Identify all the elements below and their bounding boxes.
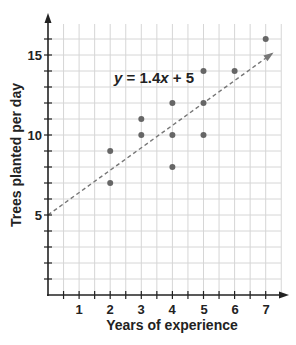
- trend-arrow-icon: [263, 53, 273, 62]
- scatter-chart: 1 2 3 4 5 6 7 5 10 15 Years of experienc…: [0, 0, 296, 345]
- data-point: [201, 100, 207, 106]
- trend-equation: y = 1.4x + 5: [113, 69, 194, 86]
- data-point: [138, 116, 144, 122]
- data-point: [169, 164, 175, 170]
- eq-end: + 5: [169, 69, 194, 86]
- y-axis-arrow-icon: [45, 13, 52, 23]
- y-tick-label: 5: [35, 208, 42, 223]
- data-point: [201, 68, 207, 74]
- eq-mid: = 1.4: [122, 69, 161, 86]
- y-axis-title: Trees planted per day: [8, 83, 24, 227]
- axes: [45, 13, 290, 299]
- x-tick-label: 5: [200, 302, 207, 317]
- data-point: [107, 148, 113, 154]
- x-tick-label: 4: [168, 302, 176, 317]
- x-tick-label: 2: [106, 302, 113, 317]
- y-tick-label: 10: [28, 128, 42, 143]
- data-point: [138, 132, 144, 138]
- x-axis-arrow-icon: [279, 292, 289, 299]
- x-tick-label: 6: [231, 302, 238, 317]
- x-tick-label: 1: [75, 302, 82, 317]
- grid: [48, 24, 281, 295]
- data-point: [263, 36, 269, 42]
- x-tick-label: 3: [137, 302, 144, 317]
- data-point: [107, 180, 113, 186]
- data-point: [232, 68, 238, 74]
- x-tick-label: 7: [262, 302, 269, 317]
- y-tick-label: 15: [28, 48, 42, 63]
- x-axis-title: Years of experience: [106, 317, 238, 333]
- data-point: [201, 132, 207, 138]
- data-point: [169, 100, 175, 106]
- data-point: [169, 132, 175, 138]
